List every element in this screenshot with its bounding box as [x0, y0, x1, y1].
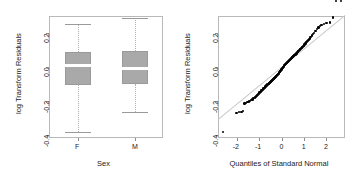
y-tick-label: -0.4	[212, 135, 219, 147]
x-tick-label: 2	[324, 143, 328, 150]
qqplot-x-axis-title: Quantiles of Standard Normal	[230, 159, 329, 168]
whisker-lower	[78, 85, 79, 132]
boxplot-y-axis-title: log Transform Residuals	[14, 33, 23, 114]
x-tick-mark	[78, 138, 79, 141]
box-f	[65, 52, 91, 85]
median-line-f	[65, 64, 91, 67]
x-tick-mark	[304, 138, 305, 141]
data-point	[329, 21, 331, 23]
x-tick-label: -2	[233, 143, 239, 150]
x-tick-mark	[259, 138, 260, 141]
figure-canvas: log Transform Residuals Sex 0.20.0-0.2-0…	[0, 0, 354, 182]
cap-lower	[65, 132, 91, 133]
median-line-m	[122, 67, 148, 70]
qqplot-panel: log Transform Residuals Quantiles of Sta…	[177, 0, 354, 182]
y-tick-label: 0.0	[43, 67, 50, 77]
x-tick-label: 1	[302, 143, 306, 150]
x-tick-mark	[326, 138, 327, 141]
x-tick-label-m: M	[132, 143, 138, 150]
data-point	[340, 0, 342, 2]
whisker-lower	[135, 84, 136, 112]
x-tick-mark	[237, 138, 238, 141]
boxplot-x-axis-title: Sex	[97, 159, 110, 168]
y-tick-label: -0.2	[43, 101, 50, 113]
whisker-upper	[78, 24, 79, 53]
x-tick-label: 0	[279, 143, 283, 150]
y-tick-label: 0.2	[212, 33, 219, 43]
y-tick-label: 0.0	[212, 67, 219, 77]
x-tick-mark	[135, 138, 136, 141]
qqplot-frame	[218, 16, 345, 138]
cap-upper	[65, 24, 91, 25]
y-tick-label: -0.2	[212, 101, 219, 113]
x-tick-label-f: F	[75, 143, 79, 150]
qqplot-y-axis-title: log Transform Residuals	[183, 33, 192, 114]
y-tick-label: -0.4	[43, 135, 50, 147]
data-point	[325, 22, 327, 24]
cap-lower	[122, 112, 148, 113]
x-tick-mark	[282, 138, 283, 141]
boxplot-panel: log Transform Residuals Sex 0.20.0-0.2-0…	[0, 0, 177, 182]
data-point	[335, 0, 337, 2]
cap-upper	[122, 18, 148, 19]
y-tick-label: 0.2	[43, 33, 50, 43]
whisker-upper	[135, 18, 136, 52]
x-tick-label: -1	[255, 143, 261, 150]
